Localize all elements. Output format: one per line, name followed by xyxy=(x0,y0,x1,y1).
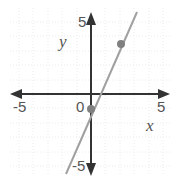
y-axis-label: y xyxy=(57,32,67,51)
x-axis-label: x xyxy=(145,116,154,135)
y-axis-up-arrow-icon xyxy=(86,12,96,25)
y-tick-pos5: 5 xyxy=(78,13,86,30)
y-axis-down-arrow-icon xyxy=(86,163,96,176)
data-point-0 xyxy=(87,105,95,113)
origin-label: 0 xyxy=(76,98,84,115)
x-tick-neg5: -5 xyxy=(13,98,26,115)
data-point-1 xyxy=(117,40,125,48)
coordinate-plane-chart: -5 5 0 5 -5 y x xyxy=(0,0,177,181)
y-tick-neg5: -5 xyxy=(72,157,85,174)
x-tick-pos5: 5 xyxy=(157,98,165,115)
